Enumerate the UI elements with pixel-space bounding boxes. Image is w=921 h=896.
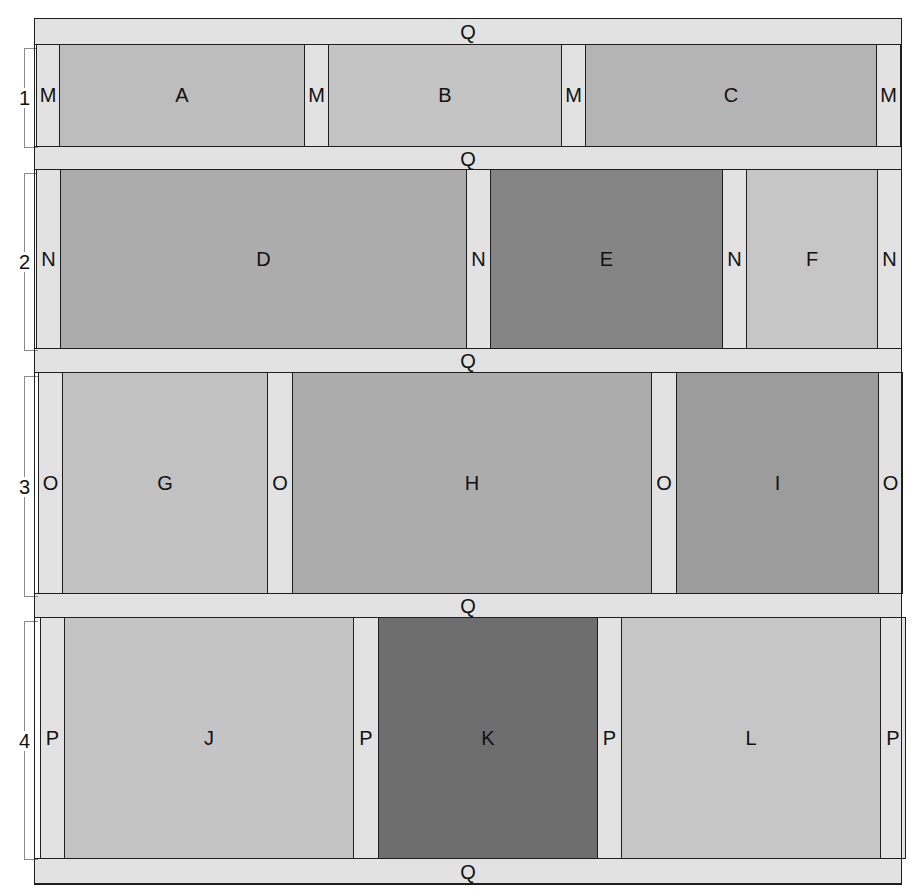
block-j: J xyxy=(64,617,354,859)
sashing-strip-m: M xyxy=(304,44,329,147)
sashing-strip-p: P xyxy=(597,617,622,859)
block-l: L xyxy=(621,617,881,859)
block-f: F xyxy=(746,169,878,349)
block-e: E xyxy=(490,169,723,349)
sashing-strip-o: O xyxy=(267,372,293,594)
q-strip: Q xyxy=(34,146,902,170)
q-strip-label: Q xyxy=(35,149,901,169)
sashing-strip-p: P xyxy=(880,617,906,859)
sashing-strip-m: M xyxy=(876,44,901,147)
sashing-strip-n: N xyxy=(877,169,902,349)
row-number: 3 xyxy=(18,477,31,497)
q-strip: Q xyxy=(34,18,902,45)
q-strip-label: Q xyxy=(35,862,901,882)
sashing-strip-p: P xyxy=(353,617,379,859)
sashing-strip-n: N xyxy=(36,169,61,349)
q-strip: Q xyxy=(34,593,902,618)
block-i: I xyxy=(676,372,879,594)
q-strip: Q xyxy=(34,858,902,885)
sashing-strip-n: N xyxy=(722,169,747,349)
block-d: D xyxy=(60,169,467,349)
sashing-strip-m: M xyxy=(561,44,586,147)
row-number: 1 xyxy=(18,88,31,108)
q-strip-label: Q xyxy=(35,596,901,616)
row-number: 4 xyxy=(18,731,31,751)
q-strip-label: Q xyxy=(35,351,901,371)
block-b: B xyxy=(328,44,562,147)
block-c: C xyxy=(585,44,877,147)
block-a: A xyxy=(59,44,305,147)
q-strip-label: Q xyxy=(35,22,901,42)
block-h: H xyxy=(292,372,652,594)
row-number: 2 xyxy=(18,252,31,272)
q-strip: Q xyxy=(34,348,902,373)
sashing-strip-o: O xyxy=(651,372,677,594)
sashing-strip-m: M xyxy=(36,44,60,147)
sashing-strip-o: O xyxy=(38,372,63,594)
sashing-strip-o: O xyxy=(878,372,903,594)
block-k: K xyxy=(378,617,598,859)
sashing-strip-n: N xyxy=(466,169,491,349)
sashing-strip-p: P xyxy=(40,617,65,859)
block-g: G xyxy=(62,372,268,594)
